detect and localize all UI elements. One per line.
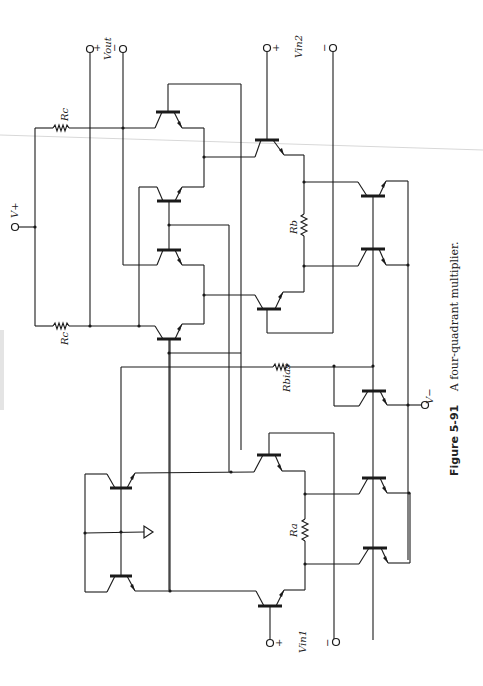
transistor-q13 bbox=[135, 590, 305, 640]
transistor-q14 bbox=[85, 473, 135, 488]
vin2-terminals: + Vin2 − bbox=[264, 35, 337, 333]
transistor-q5 bbox=[255, 140, 304, 157]
four-quadrant-multiplier-schematic: V+ Rc Rc + Vout − bbox=[0, 0, 483, 686]
figure-caption-text: A four-quadrant multiplier. bbox=[448, 241, 461, 392]
rc-bottom-label: Rc bbox=[59, 331, 70, 346]
vin2-plus-sign: + bbox=[270, 44, 281, 52]
transistor-q11 bbox=[305, 478, 409, 494]
resistor-rc-bottom: Rc bbox=[35, 323, 155, 346]
wire-to-ground bbox=[85, 532, 144, 533]
rc-top-label: Rc bbox=[59, 107, 70, 122]
transistor-q6 bbox=[255, 292, 333, 333]
resistor-rb: Rb bbox=[288, 214, 308, 236]
ra-label: Ra bbox=[288, 523, 299, 538]
rbias-label: Rbias bbox=[281, 364, 292, 393]
figure-caption: Figure 5-91 A four-quadrant multiplier. bbox=[448, 241, 461, 476]
vout-minus-sign: − bbox=[109, 44, 120, 52]
rb-label: Rb bbox=[288, 220, 299, 235]
resistor-ra: Ra bbox=[288, 519, 309, 541]
transistor-q3 bbox=[123, 128, 204, 265]
transistor-q1 bbox=[155, 84, 241, 450]
transistor-q12 bbox=[305, 493, 410, 564]
transistor-q15 bbox=[85, 576, 135, 592]
v-plus-terminal: V+ bbox=[9, 202, 37, 230]
transistor-q2 bbox=[137, 187, 204, 328]
figure-number: Figure 5-91 bbox=[448, 405, 461, 476]
wire-q10-collector-line bbox=[135, 472, 254, 473]
vout-terminals: + Vout − bbox=[87, 36, 127, 327]
scan-edge-shadow bbox=[0, 330, 4, 410]
ground-icon bbox=[144, 526, 153, 538]
v-minus-label: V− bbox=[424, 388, 435, 404]
v-minus-terminal: V− bbox=[408, 388, 435, 408]
resistor-rbias: Rbias bbox=[121, 364, 373, 393]
resistor-rc-top: Rc bbox=[35, 107, 155, 131]
vin1-plus-sign: + bbox=[273, 639, 284, 647]
vin1-terminals: + Vin1 − bbox=[267, 630, 340, 653]
vin2-label: Vin2 bbox=[293, 35, 304, 58]
vin2-minus-sign: − bbox=[319, 44, 330, 52]
v-plus-label: V+ bbox=[9, 202, 20, 218]
vin1-minus-sign: − bbox=[322, 639, 333, 647]
transistor-q4 bbox=[155, 324, 204, 590]
vout-plus-sign: + bbox=[91, 44, 102, 52]
vin1-label: Vin1 bbox=[297, 630, 308, 653]
transistor-q7 bbox=[304, 181, 408, 196]
transistor-q9-diode bbox=[334, 366, 408, 406]
transistor-q8 bbox=[304, 249, 408, 266]
